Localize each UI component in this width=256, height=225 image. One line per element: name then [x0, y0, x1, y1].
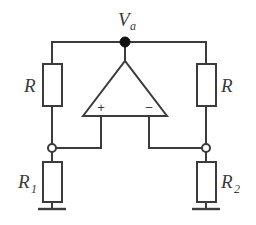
output-node-label: V a: [118, 9, 136, 33]
resistor-top-left-body: [43, 64, 62, 106]
left-tap-node: [48, 144, 56, 152]
resistor-top-left: R: [23, 64, 62, 106]
opamp-inverting-label: −: [145, 100, 153, 115]
resistor-top-right-label: R: [220, 75, 233, 96]
opamp-noninverting-label: +: [97, 100, 105, 115]
resistor-bottom-left-label: R: [17, 171, 30, 192]
circuit-diagram: + − R R R 1 R 2: [0, 0, 256, 225]
wire-noninverting-feedback: [52, 116, 101, 148]
output-node-dot: [120, 37, 130, 47]
resistor-bottom-left-body: [43, 162, 62, 202]
schematic-canvas: + − R R R 1 R 2: [0, 0, 256, 225]
resistor-bottom-right-body: [197, 162, 216, 202]
output-voltage-subscript: a: [130, 19, 136, 33]
resistor-bottom-left-subscript: 1: [31, 182, 37, 196]
opamp-symbol: + −: [83, 61, 167, 116]
resistor-top-left-label: R: [23, 75, 36, 96]
resistor-top-right: R: [197, 64, 233, 106]
resistor-bottom-right: R 2: [197, 162, 240, 202]
wire-inverting-feedback: [149, 116, 206, 148]
resistor-bottom-right-subscript: 2: [234, 182, 240, 196]
opamp-triangle: [83, 61, 167, 116]
right-tap-node: [202, 144, 210, 152]
resistor-bottom-left: R 1: [17, 162, 62, 202]
resistor-bottom-right-label: R: [220, 171, 233, 192]
resistor-top-right-body: [197, 64, 216, 106]
